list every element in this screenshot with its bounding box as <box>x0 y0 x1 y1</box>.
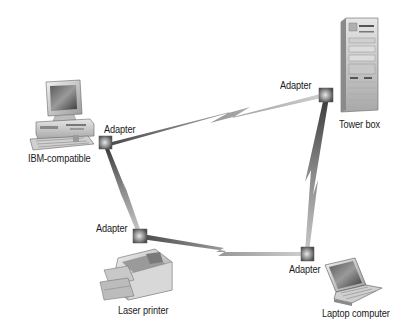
adapter-ibm <box>99 136 112 149</box>
laser-printer-icon <box>100 249 172 300</box>
tower-server-icon <box>341 18 378 112</box>
link-tower-laptop <box>305 97 329 252</box>
adapter-label-laptop: Adapter <box>289 264 321 275</box>
link-printer-laptop <box>141 234 306 256</box>
desktop-computer-icon <box>30 80 94 150</box>
adapter-label-printer: Adapter <box>96 223 128 234</box>
link-ibm-printer <box>104 146 141 233</box>
node-label-laptop: Laptop computer <box>322 308 390 319</box>
adapter-label-ibm: Adapter <box>104 124 136 135</box>
adapter-laptop <box>301 247 314 261</box>
node-label-ibm: IBM-compatible <box>28 153 91 164</box>
laptop-icon <box>325 258 382 306</box>
network-diagram: Adapter IBM-compatible Adapter Tower box… <box>0 0 408 334</box>
adapter-label-tower: Adapter <box>280 80 312 91</box>
link-ibm-tower <box>108 93 326 146</box>
node-label-tower: Tower box <box>339 119 380 130</box>
adapter-tower <box>319 88 333 102</box>
adapter-printer <box>133 229 147 243</box>
node-label-printer: Laser printer <box>118 305 168 316</box>
